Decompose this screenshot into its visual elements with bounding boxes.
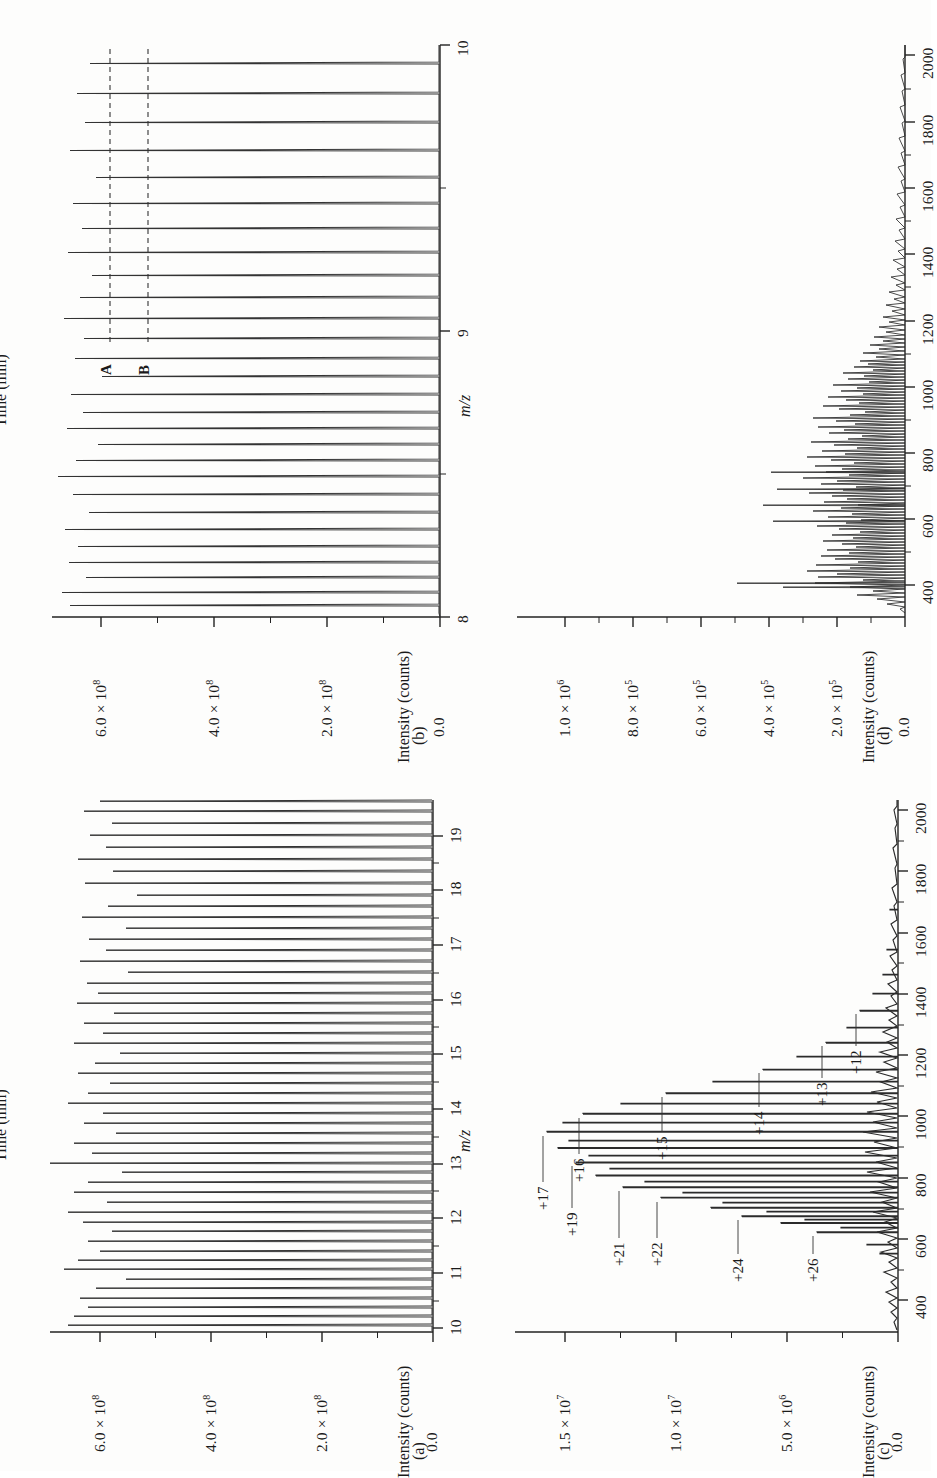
panel-c-label-15: +15 xyxy=(654,1137,671,1160)
panel-a-xtick-17: 17 xyxy=(447,936,465,952)
panel-c-label-19: +19 xyxy=(564,1213,581,1236)
panel-d-xtick-2000: 2000 xyxy=(919,48,937,79)
panel-a-xtick-11: 11 xyxy=(447,1265,465,1280)
panel-d-xtick-1800: 1800 xyxy=(919,115,937,146)
panel-d-xtick-1200: 1200 xyxy=(919,314,937,345)
panel-d-xtick-1600: 1600 xyxy=(919,181,937,212)
panel-c-label-13: +13 xyxy=(814,1083,831,1106)
panel-a-xtick-15: 15 xyxy=(447,1045,465,1061)
panel-d-xtick-600: 600 xyxy=(919,514,937,538)
panel-c-label-12: +12 xyxy=(848,1051,865,1074)
panel-c-xtick-1200: 1200 xyxy=(912,1048,930,1079)
panel-b: 0.0 2.0 × 108 4.0 × 108 6.0 × 108 xyxy=(0,0,465,760)
panel-c-xtick-1600: 1600 xyxy=(912,926,930,957)
panel-a-xtick-12: 12 xyxy=(447,1209,465,1225)
panel-c-label-14: +14 xyxy=(751,1112,768,1135)
panel-a-xtick-18: 18 xyxy=(447,881,465,897)
panel-c-label-17: +17 xyxy=(535,1187,552,1210)
panel-d-xtick-1400: 1400 xyxy=(919,247,937,278)
panel-a-xtick-13: 13 xyxy=(447,1155,465,1171)
panel-d-xtick-1000: 1000 xyxy=(919,380,937,411)
panel-c: 0.0 5.0 × 106 1.0 × 107 1.5 × 107 xyxy=(465,760,931,1471)
panel-c-xtick-2000: 2000 xyxy=(912,803,930,834)
panel-a-xtick-10: 10 xyxy=(447,1319,465,1335)
panel-c-xtick-1800: 1800 xyxy=(912,864,930,895)
panel-a-xtick-16: 16 xyxy=(447,991,465,1007)
panel-b-marker-a-label: A xyxy=(98,364,115,375)
panel-a-xtick-19: 19 xyxy=(447,827,465,843)
panel-c-xtick-1400: 1400 xyxy=(912,987,930,1018)
panel-c-label-26: +26 xyxy=(805,1259,822,1282)
panel-c-xtick-600: 600 xyxy=(912,1234,930,1258)
panel-d: 0.0 2.0 × 105 4.0 × 105 6.0 × 105 8.0 × … xyxy=(465,0,931,760)
panel-c-label-21: +21 xyxy=(611,1243,628,1266)
panel-d-xtick-400: 400 xyxy=(919,580,937,604)
panel-c-label-16: +16 xyxy=(571,1159,588,1182)
panel-c-xtick-800: 800 xyxy=(912,1173,930,1197)
panel-c-xtick-400: 400 xyxy=(912,1295,930,1319)
panel-a: 0.0 2.0 × 108 4.0 × 108 6.0 × 108 xyxy=(0,760,465,1471)
panel-c-xtick-1000: 1000 xyxy=(912,1109,930,1140)
panel-b-marker-b-label: B xyxy=(136,365,153,375)
panel-d-xtick-800: 800 xyxy=(919,448,937,472)
panel-c-label-24: +24 xyxy=(730,1259,747,1282)
panel-c-label-22: +22 xyxy=(649,1243,666,1266)
panel-a-xtick-14: 14 xyxy=(447,1100,465,1116)
